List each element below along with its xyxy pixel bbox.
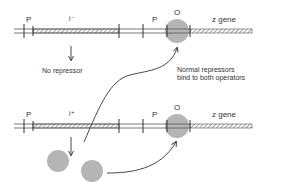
bottom-operator-repressor [165,114,189,138]
no-repressor-text: No repressor [42,67,82,75]
repressor-protein-2 [81,160,103,182]
bottom-operator-label: O [174,104,180,112]
lac-operon-diagram [0,0,288,192]
bottom-promoter-left-label: P [26,111,31,119]
top-promoter-right-label: P [152,16,157,24]
bottom-i-gene-segment [33,124,119,128]
repressor-binding-arrow-bottom [107,142,176,173]
caption-line-2: bind to both operators [177,74,245,82]
bottom-z-gene-label: z gene [212,111,236,119]
top-i-gene-label: i⁻ [69,15,75,22]
top-operator-repressor [165,19,189,43]
top-z-gene-label: z gene [212,16,236,24]
bottom-promoter-right-label: P [152,111,157,119]
bottom-z-gene-segment [190,124,252,128]
bottom-i-gene-label: i⁺ [69,110,75,117]
top-z-gene-segment [190,29,252,33]
top-operator-label: O [174,9,180,17]
top-i-gene-segment [33,29,119,33]
top-promoter-left-label: P [26,16,31,24]
repressor-protein-1 [47,150,69,172]
caption-line-1: Normal repressors [177,66,245,74]
normal-repressors-caption: Normal repressors bind to both operators [177,66,245,83]
